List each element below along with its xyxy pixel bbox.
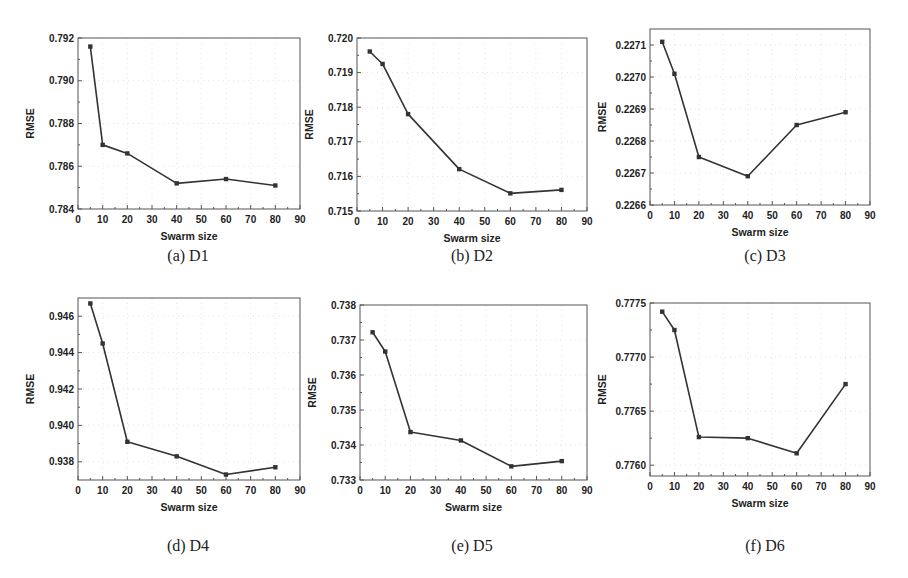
y-tick-label: 0.790 <box>49 75 74 86</box>
chart-a: 01020304050607080900.7840.7860.7880.7900… <box>24 33 306 243</box>
y-tick-label: 0.940 <box>49 420 74 431</box>
data-point <box>273 465 277 469</box>
y-tick-label: 0.938 <box>49 456 74 467</box>
x-tick-label: 90 <box>294 485 306 496</box>
data-point <box>174 454 178 458</box>
grid <box>78 298 300 480</box>
x-tick-label: 20 <box>693 210 705 221</box>
data-point <box>660 309 664 313</box>
data-point <box>88 301 92 305</box>
y-tick-label: 0.942 <box>49 384 74 395</box>
data-point <box>843 110 847 114</box>
x-tick-label: 90 <box>581 216 593 227</box>
y-tick-label: 0.716 <box>328 171 353 182</box>
y-axis: 0.9380.9400.9420.9440.946 <box>49 311 82 468</box>
x-tick-label: 50 <box>196 485 208 496</box>
y-tick-label: 0.2267 <box>615 168 646 179</box>
x-tick-label: 40 <box>742 481 754 492</box>
data-line <box>662 42 845 176</box>
data-point <box>672 328 676 332</box>
y-tick-label: 0.735 <box>331 405 356 416</box>
x-tick-label: 30 <box>428 216 440 227</box>
y-tick-label: 0.946 <box>49 311 74 322</box>
x-tick-label: 60 <box>791 481 803 492</box>
chart-e: 01020304050607080900.7330.7340.7350.7360… <box>306 300 593 514</box>
grid <box>360 305 587 480</box>
x-axis-label: Swarm size <box>160 501 217 513</box>
data-point <box>174 181 178 185</box>
grid <box>357 38 587 211</box>
y-tick-label: 0.720 <box>328 33 353 44</box>
chart-a-d1: 01020304050607080900.7840.7860.7880.7900… <box>0 0 908 578</box>
data-point <box>100 143 104 147</box>
y-axis: 0.77600.77650.77700.7775 <box>615 298 654 471</box>
y-axis-label: RMSE <box>24 108 36 138</box>
data-line <box>662 312 845 454</box>
y-axis: 0.7150.7160.7170.7180.7190.720 <box>328 33 361 217</box>
y-tick-label: 0.944 <box>49 347 74 358</box>
y-tick-label: 0.2269 <box>615 104 646 115</box>
data-point <box>408 430 412 434</box>
x-tick-label: 60 <box>791 210 803 221</box>
x-tick-label: 30 <box>718 481 730 492</box>
x-tick-label: 90 <box>294 214 306 225</box>
y-tick-label: 0.7775 <box>615 298 646 309</box>
caption-e: (e) D5 <box>372 537 572 555</box>
caption-a: (a) D1 <box>88 247 288 265</box>
y-axis-label: RMSE <box>24 374 36 404</box>
x-tick-label: 50 <box>481 485 493 496</box>
x-tick-label: 30 <box>718 210 730 221</box>
x-tick-label: 30 <box>430 485 442 496</box>
x-tick-label: 20 <box>693 481 705 492</box>
x-tick-label: 0 <box>75 214 81 225</box>
x-tick-label: 10 <box>380 485 392 496</box>
y-axis-label: RMSE <box>306 377 318 407</box>
data-point <box>697 155 701 159</box>
data-point <box>100 341 104 345</box>
x-tick-label: 70 <box>245 214 257 225</box>
chart-b: 01020304050607080900.7150.7160.7170.7180… <box>303 33 593 245</box>
caption-b: (b) D2 <box>372 247 572 265</box>
plot-frame <box>650 29 870 205</box>
x-tick-label: 80 <box>556 216 568 227</box>
data-line <box>90 47 275 186</box>
x-tick-label: 70 <box>245 485 257 496</box>
y-tick-label: 0.2270 <box>615 72 646 83</box>
x-tick-label: 40 <box>455 485 467 496</box>
plot-frame <box>650 303 870 476</box>
y-tick-label: 0.2266 <box>615 200 646 211</box>
x-tick-label: 0 <box>75 485 81 496</box>
x-tick-label: 90 <box>864 210 876 221</box>
grid <box>650 29 870 205</box>
x-axis-label: Swarm size <box>731 497 788 509</box>
x-tick-label: 70 <box>816 481 828 492</box>
x-axis-label: Swarm size <box>731 226 788 238</box>
y-tick-label: 0.734 <box>331 440 356 451</box>
x-tick-label: 20 <box>122 485 134 496</box>
caption-d: (d) D4 <box>88 537 288 555</box>
x-tick-label: 0 <box>354 216 360 227</box>
data-point <box>560 459 564 463</box>
x-axis-label: Swarm size <box>445 501 502 513</box>
data-line <box>373 332 562 466</box>
data-point <box>508 191 512 195</box>
x-axis-label: Swarm size <box>160 230 217 242</box>
y-tick-label: 0.788 <box>49 118 74 129</box>
y-tick-label: 0.738 <box>331 300 356 311</box>
data-point <box>380 62 384 66</box>
caption-c: (c) D3 <box>665 247 865 265</box>
plot-frame <box>357 38 587 211</box>
x-tick-label: 20 <box>405 485 417 496</box>
x-tick-label: 50 <box>479 216 491 227</box>
data-point <box>273 183 277 187</box>
y-tick-label: 0.7760 <box>615 460 646 471</box>
y-axis: 0.7330.7340.7350.7360.7370.738 <box>331 300 364 486</box>
data-point <box>746 436 750 440</box>
x-axis: 0102030405060708090 <box>647 201 876 221</box>
grid <box>650 303 870 476</box>
y-axis-label: RMSE <box>303 109 315 139</box>
x-tick-label: 40 <box>171 485 183 496</box>
x-axis: 0102030405060708090 <box>354 207 593 227</box>
data-point <box>125 151 129 155</box>
chart-f: 01020304050607080900.77600.77650.77700.7… <box>596 298 876 510</box>
